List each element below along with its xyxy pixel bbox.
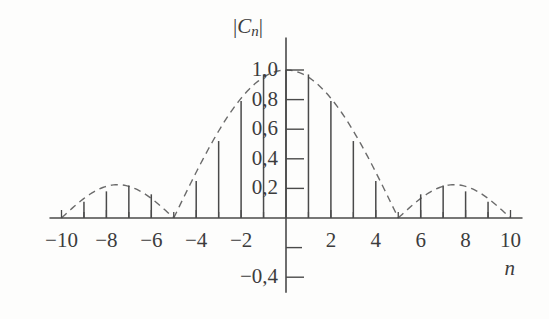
y-tick-label: 1,0 — [218, 59, 278, 80]
y-axis-label: |Cn| — [233, 16, 263, 39]
y-tick-label: −0,4 — [218, 266, 278, 287]
y-label-bar-right: | — [259, 14, 263, 38]
y-label-subscript: n — [251, 23, 259, 39]
y-tick-label: 0,8 — [218, 89, 278, 110]
y-tick-label: 0,4 — [218, 148, 278, 169]
x-axis-label: n — [505, 258, 516, 279]
chart-figure: |Cn| n −10−8−6−4−22468101,00,80,60,40,2−… — [0, 0, 549, 319]
x-tick-label: −2 — [211, 230, 271, 251]
x-tick-label: 10 — [481, 230, 541, 251]
y-label-letter: C — [237, 14, 251, 38]
y-tick-label: 0,2 — [218, 177, 278, 198]
y-tick-label: 0,6 — [218, 118, 278, 139]
axes — [50, 38, 521, 292]
